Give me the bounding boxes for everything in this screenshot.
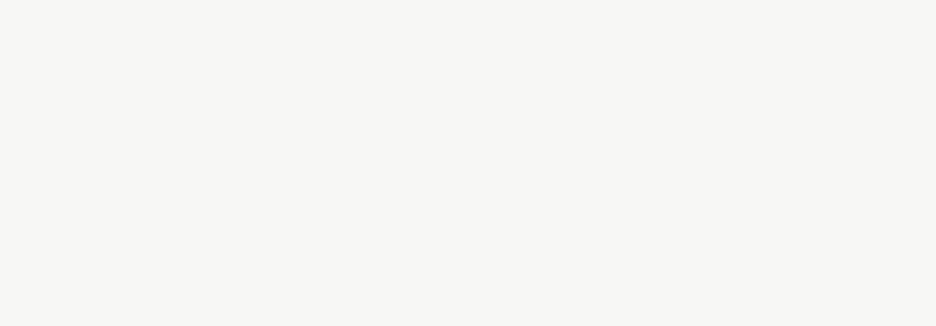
interdiffusion-figure xyxy=(0,0,936,326)
